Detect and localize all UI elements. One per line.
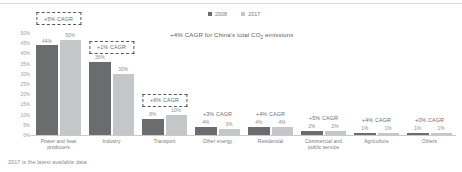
y-axis-tick: 50% bbox=[21, 31, 31, 36]
bar-2008[interactable] bbox=[354, 133, 375, 135]
bar-2008[interactable] bbox=[301, 131, 322, 135]
bar-2008[interactable] bbox=[248, 127, 269, 135]
bar-value-label: 30% bbox=[118, 67, 128, 72]
chart-legend: 2008 2017 bbox=[208, 11, 260, 17]
bar-column-2008[interactable]: 4% bbox=[195, 33, 216, 135]
bar-group: 1%1%+0% CAGR bbox=[403, 33, 456, 135]
bar-column-2017[interactable]: 4% bbox=[272, 33, 293, 135]
legend-swatch-2008 bbox=[208, 12, 212, 16]
bar-value-label: 44% bbox=[42, 39, 52, 44]
bar-value-label: 4% bbox=[279, 120, 286, 125]
bar-group: 8%10%+6% CAGR bbox=[138, 33, 191, 135]
bar-group: 2%2%+5% CAGR bbox=[297, 33, 350, 135]
x-axis-baseline bbox=[30, 135, 456, 136]
bar-pair: 4%4% bbox=[244, 33, 297, 135]
bar-2008[interactable] bbox=[89, 62, 110, 135]
bar-value-label: 3% bbox=[226, 122, 233, 127]
legend-label-2017: 2017 bbox=[248, 11, 260, 17]
bar-column-2008[interactable]: 44% bbox=[36, 33, 57, 135]
bar-column-2017[interactable]: 50% bbox=[60, 33, 81, 135]
bar-group: 36%30%+1% CAGR bbox=[85, 33, 138, 135]
bar-value-label: 1% bbox=[361, 126, 368, 131]
bar-2017[interactable] bbox=[325, 131, 346, 135]
bar-value-label: 1% bbox=[414, 126, 421, 131]
category-label: Transport bbox=[138, 139, 191, 151]
cagr-annotation: +5% CAGR bbox=[304, 113, 343, 123]
cagr-annotation: +6% CAGR bbox=[142, 94, 187, 107]
bar-2017[interactable] bbox=[113, 74, 134, 135]
cagr-annotation: +5% CAGR bbox=[36, 12, 81, 25]
bar-column-2008[interactable]: 8% bbox=[142, 33, 163, 135]
bar-pair: 8%10% bbox=[138, 33, 191, 135]
category-label: Industry bbox=[85, 139, 138, 151]
bar-value-label: 1% bbox=[385, 126, 392, 131]
cagr-annotation: +0% CAGR bbox=[410, 115, 449, 125]
bar-column-2017[interactable]: 3% bbox=[219, 33, 240, 135]
y-axis-tick: 15% bbox=[21, 102, 31, 107]
bar-2017[interactable] bbox=[166, 115, 187, 135]
y-axis-tick: 40% bbox=[21, 51, 31, 56]
y-axis-tick: 5% bbox=[23, 122, 30, 127]
cagr-annotation: +4% CAGR bbox=[357, 115, 396, 125]
bar-2017[interactable] bbox=[378, 133, 399, 135]
category-label: Power and heat producers bbox=[32, 139, 85, 151]
category-label: Other energy bbox=[191, 139, 244, 151]
bar-value-label: 4% bbox=[255, 120, 262, 125]
bar-groups: 44%50%+5% CAGR36%30%+1% CAGR8%10%+6% CAG… bbox=[32, 33, 456, 135]
bar-2017[interactable] bbox=[60, 40, 81, 136]
chart-footnote: 2017 is the latest available data bbox=[8, 159, 87, 165]
bar-2008[interactable] bbox=[142, 119, 163, 135]
y-axis-tick: 30% bbox=[21, 71, 31, 76]
category-label: Residential bbox=[244, 139, 297, 151]
bar-value-label: 2% bbox=[308, 124, 315, 129]
bar-value-label: 8% bbox=[149, 112, 156, 117]
bar-2008[interactable] bbox=[195, 127, 216, 135]
bar-2008[interactable] bbox=[36, 45, 57, 135]
chart-plot-area: 50%45%40%35%30%25%20%15%10%5%0% 44%50%+5… bbox=[8, 33, 456, 136]
bar-value-label: 4% bbox=[202, 120, 209, 125]
legend-swatch-2017 bbox=[241, 12, 245, 16]
y-axis-tick: 45% bbox=[21, 41, 31, 46]
bar-group: 4%4%+4% CAGR bbox=[244, 33, 297, 135]
category-label: Others bbox=[403, 139, 456, 151]
legend-item-2008: 2008 bbox=[208, 11, 227, 17]
top-divider bbox=[0, 3, 462, 4]
bar-value-label: 36% bbox=[95, 55, 105, 60]
bar-pair: 4%3% bbox=[191, 33, 244, 135]
legend-item-2017: 2017 bbox=[241, 11, 260, 17]
y-axis-tick: 20% bbox=[21, 92, 31, 97]
bar-group: 4%3%+3% CAGR bbox=[191, 33, 244, 135]
bar-group: 1%1%+4% CAGR bbox=[350, 33, 403, 135]
x-axis-categories: Power and heat producersIndustryTranspor… bbox=[32, 139, 456, 151]
bar-column-2008[interactable]: 4% bbox=[248, 33, 269, 135]
category-label: Commercial and public service bbox=[297, 139, 350, 151]
legend-label-2008: 2008 bbox=[215, 11, 227, 17]
chart-page: { "chart_data": { "type": "bar", "title"… bbox=[0, 0, 462, 172]
y-axis-tick: 25% bbox=[21, 82, 31, 87]
y-axis-ticks: 50%45%40%35%30%25%20%15%10%5%0% bbox=[8, 33, 30, 136]
cagr-annotation: +3% CAGR bbox=[198, 109, 237, 119]
bar-value-label: 50% bbox=[65, 33, 75, 38]
y-axis-tick: 35% bbox=[21, 61, 31, 66]
bar-value-label: 10% bbox=[171, 108, 181, 113]
bar-pair: 44%50% bbox=[32, 33, 85, 135]
category-label: Agriculture bbox=[350, 139, 403, 151]
y-axis-tick: 10% bbox=[21, 112, 31, 117]
cagr-annotation: +4% CAGR bbox=[251, 109, 290, 119]
bar-2017[interactable] bbox=[431, 133, 452, 135]
bar-2017[interactable] bbox=[272, 127, 293, 135]
y-axis-tick: 0% bbox=[23, 133, 30, 138]
bar-value-label: 1% bbox=[438, 126, 445, 131]
bar-value-label: 2% bbox=[332, 124, 339, 129]
bar-2017[interactable] bbox=[219, 129, 240, 135]
cagr-annotation: +1% CAGR bbox=[89, 41, 134, 54]
bar-group: 44%50%+5% CAGR bbox=[32, 33, 85, 135]
bar-column-2017[interactable]: 10% bbox=[166, 33, 187, 135]
bar-2008[interactable] bbox=[407, 133, 428, 135]
